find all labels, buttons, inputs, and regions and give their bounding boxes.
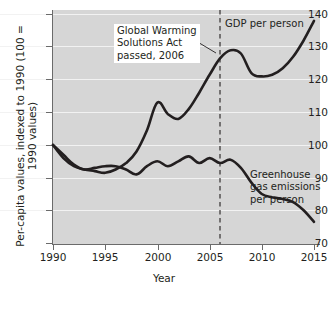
series-label-emissions-line-1: Greenhouse bbox=[250, 169, 320, 181]
series-label-emissions-line-2: gas emissions bbox=[250, 181, 320, 193]
annotation-line-1: Global Warming bbox=[117, 25, 197, 37]
annotation-line-3: passed, 2006 bbox=[117, 50, 197, 62]
chart-container: 140 130 120 110 100 90 80 70 1990 1995 2… bbox=[0, 0, 328, 310]
series-label-emissions: Greenhouse gas emissions per person bbox=[247, 168, 323, 207]
annotation-global-warming-act: Global Warming Solutions Act passed, 200… bbox=[114, 24, 200, 63]
series-label-emissions-line-3: per person bbox=[250, 194, 320, 206]
annotation-line-2: Solutions Act bbox=[117, 37, 197, 49]
series-label-gdp: GDP per person bbox=[222, 17, 307, 31]
